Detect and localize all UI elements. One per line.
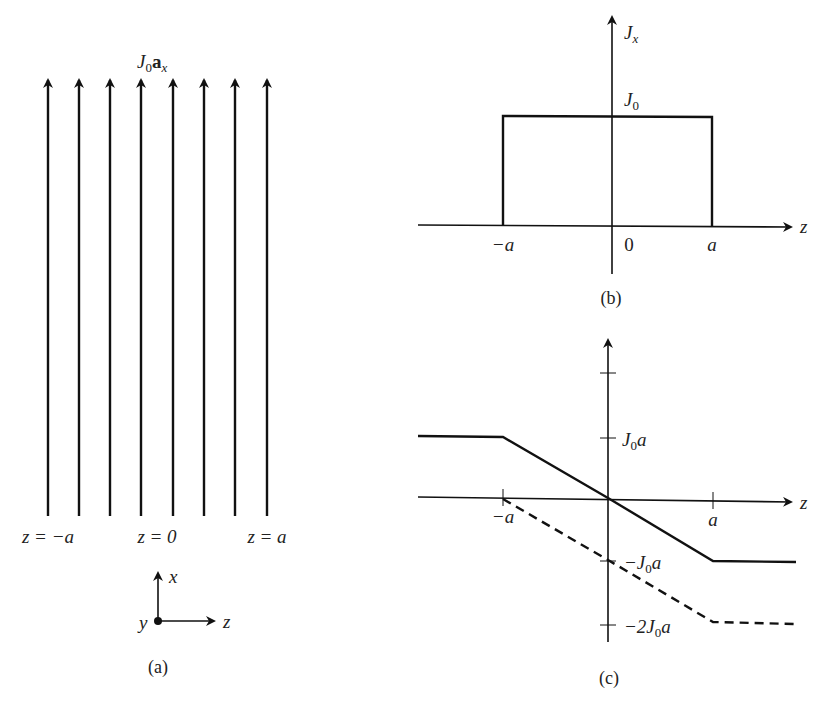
y-axis-out-of-page-dot-icon (154, 617, 162, 625)
coord-z-label: z (222, 611, 231, 632)
tick-label-neg-a: −a (492, 506, 514, 527)
tick-label-pos-a: a (708, 509, 718, 530)
z-axis (418, 497, 791, 502)
label-neg-j0a: −J0a (624, 552, 661, 576)
j0-level-label: J0 (624, 89, 639, 113)
z-axis-label: z (799, 492, 808, 513)
caption-a: (a) (148, 657, 168, 678)
coordinate-axes: x z y (137, 566, 231, 633)
figure-canvas: J0ax z = −a z = 0 z = a x z y (a) (0, 0, 824, 708)
position-label-zero: z = 0 (136, 526, 177, 547)
current-density-profile (503, 116, 712, 227)
label-j0a: J0a (622, 429, 646, 453)
tick-label-zero: 0 (624, 234, 634, 255)
label-neg-2j0a: −2J0a (624, 616, 671, 640)
panel-b: Jx J0 z −a 0 a (b) (418, 17, 808, 309)
z-axis-label: z (799, 216, 808, 237)
z-axis (418, 225, 791, 227)
coord-y-label: y (137, 612, 148, 633)
panel-c: J0a −J0a −2J0a −a a z (c) (418, 340, 808, 689)
position-label-neg-a: z = −a (21, 526, 74, 547)
current-arrows (48, 80, 267, 516)
caption-b: (b) (601, 288, 622, 309)
current-sheet-label: J0ax (137, 51, 167, 75)
tick-label-pos-a: a (707, 234, 717, 255)
position-label-pos-a: z = a (246, 526, 286, 547)
jx-axis-label: Jx (624, 22, 638, 46)
caption-c: (c) (599, 668, 619, 689)
tick-label-neg-a: −a (492, 234, 514, 255)
panel-a: J0ax z = −a z = 0 z = a x z y (a) (21, 51, 287, 678)
coord-x-label: x (168, 566, 178, 587)
